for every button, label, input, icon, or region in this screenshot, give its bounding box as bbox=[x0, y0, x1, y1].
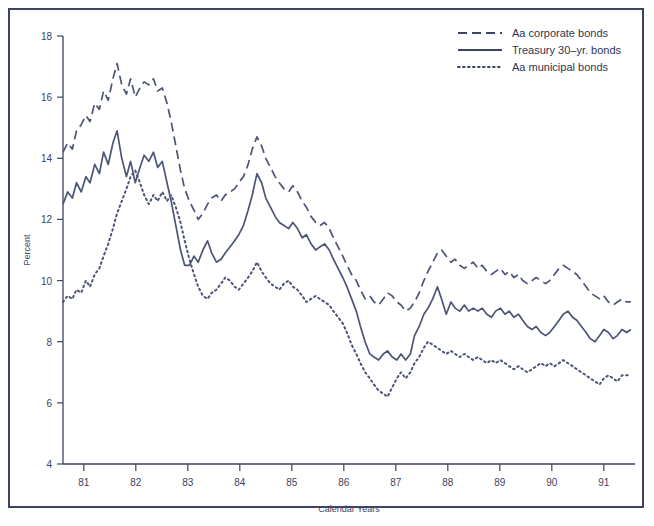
y-axis-title: Percent bbox=[22, 234, 32, 266]
legend-label-3[interactable]: Aa municipal bonds bbox=[512, 61, 609, 73]
x-tick-label: 86 bbox=[338, 477, 350, 488]
x-tick-label: 91 bbox=[598, 477, 610, 488]
x-tick-label: 90 bbox=[546, 477, 558, 488]
series-line-1 bbox=[63, 64, 631, 312]
x-tick-label: 81 bbox=[78, 477, 90, 488]
y-tick-label: 18 bbox=[41, 31, 53, 42]
y-tick-label: 4 bbox=[46, 459, 52, 470]
y-tick-label: 10 bbox=[41, 276, 53, 287]
x-tick-label: 82 bbox=[130, 477, 142, 488]
figure-container: 46810121416188182838485868788899091Calen… bbox=[0, 0, 654, 526]
legend-label-2[interactable]: Treasury 30–yr. bonds bbox=[512, 44, 622, 56]
x-tick-label: 89 bbox=[494, 477, 506, 488]
legend-label-1[interactable]: Aa corporate bonds bbox=[512, 27, 609, 39]
y-tick-label: 16 bbox=[41, 92, 53, 103]
x-axis-title: Calendar Years bbox=[318, 504, 380, 514]
y-tick-label: 12 bbox=[41, 214, 53, 225]
line-chart: 46810121416188182838485868788899091Calen… bbox=[0, 0, 654, 526]
x-tick-label: 85 bbox=[286, 477, 298, 488]
y-tick-label: 8 bbox=[46, 337, 52, 348]
x-tick-label: 87 bbox=[390, 477, 402, 488]
x-tick-label: 84 bbox=[234, 477, 246, 488]
y-tick-label: 6 bbox=[46, 398, 52, 409]
series-line-2 bbox=[63, 131, 631, 360]
x-tick-label: 88 bbox=[442, 477, 454, 488]
y-tick-label: 14 bbox=[41, 153, 53, 164]
x-tick-label: 83 bbox=[182, 477, 194, 488]
